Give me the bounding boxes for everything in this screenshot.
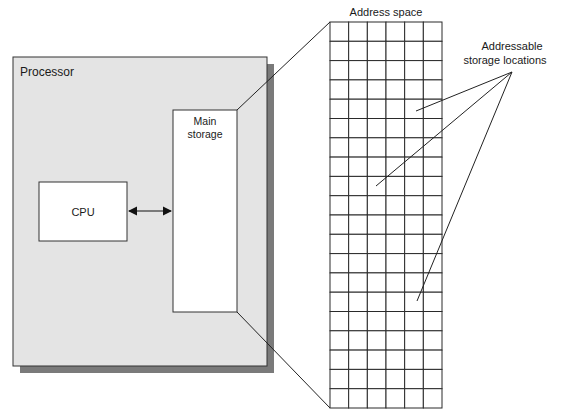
storage-location-cell	[367, 157, 386, 176]
storage-location-cell	[423, 292, 442, 311]
storage-location-cell	[405, 22, 424, 41]
storage-location-cell	[405, 176, 424, 195]
storage-location-cell	[386, 331, 405, 350]
storage-location-cell	[367, 80, 386, 99]
main-storage-box	[173, 110, 237, 312]
storage-location-cell	[349, 331, 368, 350]
storage-location-cell	[386, 138, 405, 157]
storage-location-cell	[405, 254, 424, 273]
storage-location-cell	[349, 119, 368, 138]
storage-location-cell	[386, 41, 405, 60]
storage-location-cell	[423, 157, 442, 176]
storage-location-cell	[405, 273, 424, 292]
storage-location-cell	[386, 196, 405, 215]
storage-location-cell	[349, 80, 368, 99]
storage-location-cell	[349, 312, 368, 331]
storage-location-cell	[405, 331, 424, 350]
storage-location-cell	[330, 312, 349, 331]
storage-location-cell	[367, 22, 386, 41]
storage-location-cell	[423, 331, 442, 350]
storage-location-cell	[349, 389, 368, 408]
storage-location-cell	[386, 350, 405, 369]
storage-location-cell	[330, 369, 349, 388]
storage-location-cell	[330, 234, 349, 253]
storage-location-cell	[405, 350, 424, 369]
storage-location-cell	[367, 138, 386, 157]
storage-location-cell	[423, 80, 442, 99]
storage-location-cell	[367, 350, 386, 369]
storage-location-cell	[330, 138, 349, 157]
storage-location-cell	[330, 61, 349, 80]
storage-location-cell	[367, 234, 386, 253]
storage-location-cell	[367, 119, 386, 138]
storage-location-cell	[349, 99, 368, 118]
storage-location-cell	[367, 331, 386, 350]
callout-label-line2: storage locations	[463, 54, 547, 66]
storage-location-cell	[405, 119, 424, 138]
storage-location-cell	[349, 273, 368, 292]
storage-location-cell	[349, 157, 368, 176]
storage-location-cell	[423, 61, 442, 80]
storage-location-cell	[386, 273, 405, 292]
storage-location-cell	[405, 196, 424, 215]
storage-location-cell	[349, 61, 368, 80]
storage-location-cell	[386, 215, 405, 234]
main-storage-label-line1: Main	[194, 115, 217, 127]
storage-location-cell	[423, 215, 442, 234]
storage-location-cell	[349, 369, 368, 388]
storage-location-cell	[330, 157, 349, 176]
storage-location-cell	[423, 273, 442, 292]
storage-location-cell	[405, 369, 424, 388]
storage-location-cell	[367, 369, 386, 388]
storage-location-cell	[423, 22, 442, 41]
storage-location-cell	[386, 292, 405, 311]
storage-location-cell	[349, 138, 368, 157]
storage-location-cell	[423, 41, 442, 60]
address-space-grid	[330, 22, 442, 408]
storage-location-cell	[423, 138, 442, 157]
callout-label-line1: Addressable	[481, 40, 542, 52]
storage-location-cell	[423, 196, 442, 215]
storage-location-cell	[367, 215, 386, 234]
storage-location-cell	[349, 176, 368, 195]
storage-location-cell	[330, 119, 349, 138]
storage-location-cell	[330, 99, 349, 118]
storage-location-cell	[386, 176, 405, 195]
cpu-label: CPU	[71, 206, 94, 218]
storage-location-cell	[405, 312, 424, 331]
storage-location-cell	[405, 215, 424, 234]
storage-location-cell	[386, 389, 405, 408]
storage-location-cell	[330, 22, 349, 41]
storage-location-cell	[367, 196, 386, 215]
storage-location-cell	[330, 292, 349, 311]
storage-location-cell	[367, 41, 386, 60]
storage-location-cell	[367, 99, 386, 118]
storage-location-cell	[405, 41, 424, 60]
storage-location-cell	[386, 61, 405, 80]
storage-location-cell	[330, 273, 349, 292]
storage-location-cell	[386, 119, 405, 138]
storage-location-cell	[386, 80, 405, 99]
storage-location-cell	[349, 41, 368, 60]
storage-location-cell	[367, 254, 386, 273]
storage-location-cell	[330, 196, 349, 215]
storage-location-cell	[330, 41, 349, 60]
storage-location-cell	[423, 176, 442, 195]
storage-location-cell	[386, 99, 405, 118]
storage-location-cell	[367, 292, 386, 311]
storage-location-cell	[330, 176, 349, 195]
storage-location-cell	[386, 369, 405, 388]
storage-location-cell	[330, 215, 349, 234]
address-space-title: Address space	[350, 6, 423, 18]
storage-location-cell	[386, 254, 405, 273]
diagram-canvas: Processor CPU Main storage Address space…	[0, 0, 573, 418]
storage-location-cell	[349, 215, 368, 234]
storage-location-cell	[386, 312, 405, 331]
storage-location-cell	[367, 312, 386, 331]
storage-location-cell	[330, 389, 349, 408]
main-storage-label-line2: storage	[187, 128, 222, 140]
storage-location-cell	[349, 196, 368, 215]
storage-location-cell	[330, 350, 349, 369]
storage-location-cell	[423, 350, 442, 369]
storage-location-cell	[330, 254, 349, 273]
